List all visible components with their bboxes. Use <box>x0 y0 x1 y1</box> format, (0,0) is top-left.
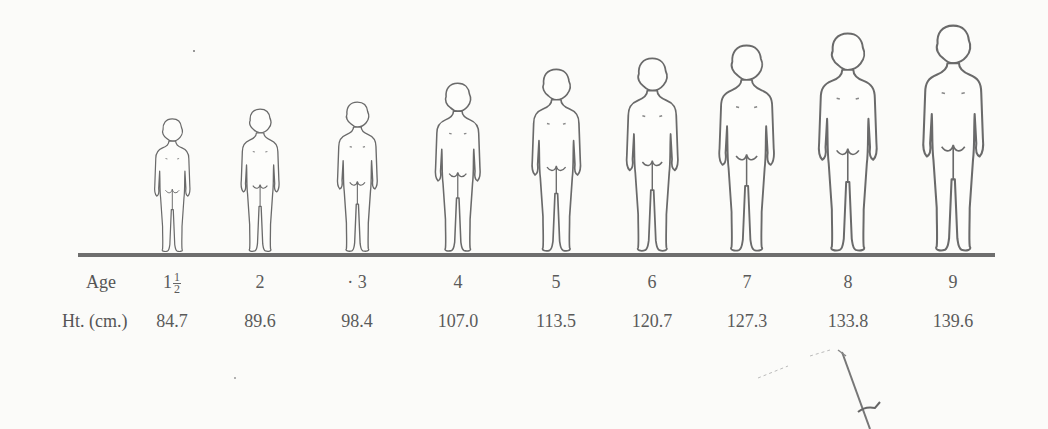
age-value: 5 <box>552 272 561 293</box>
child-silhouette-icon <box>148 118 197 253</box>
child-figure-age-2 <box>234 108 286 253</box>
child-silhouette-icon <box>330 101 385 253</box>
child-figure-age-1 <box>148 118 197 253</box>
child-silhouette-icon <box>523 68 590 253</box>
child-figure-age-8 <box>808 32 888 253</box>
child-silhouette-icon <box>234 108 286 253</box>
height-value: 98.4 <box>341 311 373 332</box>
age-fraction: 12 <box>173 272 181 295</box>
age-row-label: Age <box>86 272 116 293</box>
pencil-mark <box>740 340 920 429</box>
height-value: 120.7 <box>632 311 673 332</box>
age-value: 8 <box>844 272 853 293</box>
age-value: 2 <box>256 272 265 293</box>
height-row-label: Ht. (cm.) <box>62 311 127 332</box>
child-figure-age-6 <box>617 57 688 253</box>
ground-baseline <box>78 253 995 257</box>
height-value: 139.6 <box>933 311 974 332</box>
child-figure-age-5 <box>523 68 590 253</box>
age-value: · 3 <box>347 272 367 293</box>
child-figure-age-3 <box>330 101 385 253</box>
child-figure-age-4 <box>427 82 489 253</box>
height-value: 127.3 <box>727 311 768 332</box>
child-silhouette-icon <box>617 57 688 253</box>
age-value: 4 <box>454 272 463 293</box>
age-value: 6 <box>648 272 657 293</box>
ink-speck <box>193 50 195 52</box>
age-value: 112 <box>163 272 181 295</box>
child-silhouette-icon <box>427 82 489 253</box>
age-value: 7 <box>743 272 752 293</box>
height-value: 107.0 <box>438 311 479 332</box>
child-silhouette-icon <box>912 24 994 253</box>
child-silhouette-icon <box>808 32 888 253</box>
height-value: 89.6 <box>244 311 276 332</box>
height-value: 133.8 <box>828 311 869 332</box>
child-silhouette-icon <box>709 44 784 253</box>
growth-illustration: Age Ht. (cm.) 11284.7289.6· 398.44107.05… <box>0 0 1048 429</box>
child-figure-age-9 <box>912 24 994 253</box>
age-value: 9 <box>949 272 958 293</box>
ink-speck <box>234 377 236 379</box>
height-value: 113.5 <box>536 311 576 332</box>
height-value: 84.7 <box>156 311 188 332</box>
child-figure-age-7 <box>709 44 784 253</box>
